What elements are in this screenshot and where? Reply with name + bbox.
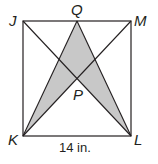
side-length-label: 14 in. — [59, 140, 91, 155]
label-q: Q — [71, 1, 83, 18]
label-l: L — [134, 131, 142, 148]
geometry-diagram: J Q M P K L 14 in. — [0, 0, 158, 164]
label-k: K — [8, 131, 19, 148]
label-j: J — [8, 12, 17, 29]
label-p: P — [73, 86, 83, 103]
label-m: M — [134, 12, 147, 29]
